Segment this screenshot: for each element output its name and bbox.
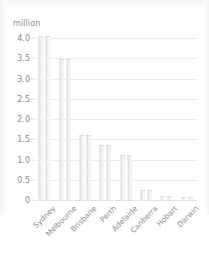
y-tick-label: 0: [25, 196, 30, 205]
x-tick-label: Darwin: [175, 204, 200, 229]
bar-group[interactable]: [177, 197, 197, 200]
bar[interactable]: [140, 190, 145, 200]
x-tick-label: Hobart: [155, 204, 179, 228]
x-tick-label-text: Darwin: [175, 204, 200, 229]
bar-group[interactable]: [156, 196, 176, 200]
figure-frame-left: [0, 0, 7, 215]
bar[interactable]: [86, 135, 91, 200]
bar-group[interactable]: [54, 59, 74, 200]
y-tick-label: 1.5: [17, 135, 30, 144]
x-tick-label-text: Hobart: [155, 204, 179, 228]
bar[interactable]: [79, 135, 84, 200]
bar[interactable]: [106, 145, 111, 200]
bar[interactable]: [59, 59, 64, 200]
bar[interactable]: [147, 190, 152, 200]
bar[interactable]: [120, 155, 125, 200]
y-tick-label: 0.5: [17, 175, 30, 184]
bar[interactable]: [181, 197, 186, 200]
bar-group[interactable]: [116, 155, 136, 200]
bar[interactable]: [66, 59, 71, 200]
bar[interactable]: [167, 196, 172, 200]
y-tick-label: 2.5: [17, 94, 30, 103]
y-gridline: [34, 200, 197, 201]
chart-figure: million 00.51.01.52.02.53.03.54.0 Sydney…: [0, 0, 209, 255]
y-tick-label: 2.0: [17, 115, 30, 124]
y-tick-label: 3.0: [17, 74, 30, 83]
bar[interactable]: [127, 155, 132, 200]
y-tick-label: 4.0: [17, 34, 30, 43]
bar-group[interactable]: [136, 190, 156, 200]
figure-frame-right: [204, 0, 209, 215]
bar[interactable]: [99, 145, 104, 200]
figure-frame-top: [0, 0, 209, 7]
bar-group[interactable]: [75, 135, 95, 200]
y-tick-label: 1.0: [17, 155, 30, 164]
bar[interactable]: [188, 197, 193, 200]
plot-area: 00.51.01.52.02.53.03.54.0: [34, 28, 197, 200]
y-axis-unit-label: million: [13, 19, 40, 28]
bar-group[interactable]: [34, 36, 54, 200]
bar[interactable]: [45, 36, 50, 200]
bar[interactable]: [38, 36, 43, 200]
y-tick-label: 3.5: [17, 54, 30, 63]
bar[interactable]: [160, 196, 165, 200]
y-gridline: [34, 38, 197, 39]
bar-group[interactable]: [95, 145, 115, 200]
